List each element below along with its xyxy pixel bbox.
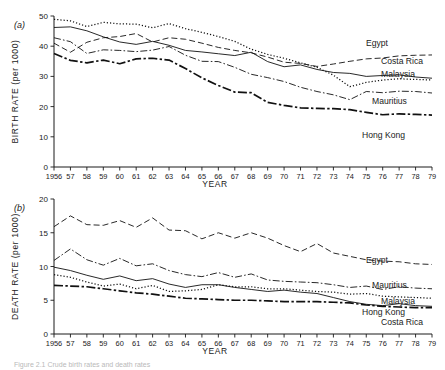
x-tick-label: 69 <box>264 339 272 348</box>
x-tick-label: 60 <box>116 339 124 348</box>
y-axis-title: BIRTH RATE (per 1000) <box>10 40 20 144</box>
series-label-malaysia: Malaysia <box>381 296 415 306</box>
series-label-mauritius: Mauritius <box>372 280 407 290</box>
series-line-malaysia <box>54 19 432 86</box>
x-tick-label: 59 <box>99 339 107 348</box>
x-tick-label: 58 <box>83 339 91 348</box>
x-tick-label: 67 <box>231 172 239 181</box>
x-tick-label: 64 <box>181 172 189 181</box>
x-tick-label: 63 <box>165 339 173 348</box>
x-tick-label: 68 <box>247 172 255 181</box>
y-tick-label: 5 <box>44 296 49 305</box>
x-tick-label: 72 <box>313 339 321 348</box>
series-label-mauritius: Mauritius <box>372 96 407 106</box>
series-label-hong-kong: Hong Kong <box>362 307 405 317</box>
panel-birth-rate: (a)0102030405019565758596061626364656667… <box>10 12 436 189</box>
x-tick-label: 58 <box>83 172 91 181</box>
series-label-egypt: Egypt <box>366 38 389 48</box>
x-tick-label: 57 <box>66 172 74 181</box>
y-tick-label: 30 <box>39 72 48 81</box>
x-tick-label: 77 <box>395 172 403 181</box>
y-tick-label: 20 <box>39 195 48 204</box>
y-tick-label: 20 <box>39 103 48 112</box>
x-tick-label: 63 <box>165 172 173 181</box>
x-tick-label: 72 <box>313 172 321 181</box>
series-label-egypt: Egypt <box>366 255 389 265</box>
panel-death-rate: (b)0510152019565758596061626364656667686… <box>10 195 436 356</box>
x-tick-label: 1956 <box>46 339 62 348</box>
x-tick-label: 76 <box>379 172 387 181</box>
y-tick-label: 40 <box>39 42 48 51</box>
figure-caption: Figure 2.1 Crude birth rates and death r… <box>14 361 151 369</box>
y-tick-label: 15 <box>39 229 48 238</box>
x-tick-label: 75 <box>362 339 370 348</box>
panel-tag-a: (a) <box>14 20 25 30</box>
x-tick-label: 71 <box>296 172 304 181</box>
y-tick-label: 10 <box>39 263 48 272</box>
figure-container: (a)0102030405019565758596061626364656667… <box>0 0 445 370</box>
dual-line-chart: (a)0102030405019565758596061626364656667… <box>0 0 445 370</box>
x-tick-label: 77 <box>395 339 403 348</box>
y-tick-label: 10 <box>39 133 48 142</box>
x-tick-label: 57 <box>66 339 74 348</box>
x-tick-label: 64 <box>181 339 189 348</box>
x-axis-title: YEAR <box>202 179 228 189</box>
x-tick-label: 73 <box>329 339 337 348</box>
panel-tag-b: (b) <box>14 203 25 213</box>
series-label-costa-rica: Costa Rica <box>381 56 423 66</box>
x-tick-label: 62 <box>148 339 156 348</box>
series-label-costa-rica: Costa Rica <box>381 317 423 327</box>
series-label-malaysia: Malaysia <box>381 69 415 79</box>
x-tick-label: 68 <box>247 339 255 348</box>
x-tick-label: 1956 <box>46 172 62 181</box>
y-tick-label: 50 <box>39 12 48 21</box>
x-axis-title: YEAR <box>202 346 228 356</box>
x-tick-label: 70 <box>280 172 288 181</box>
x-tick-label: 61 <box>132 339 140 348</box>
x-tick-label: 70 <box>280 339 288 348</box>
x-tick-label: 60 <box>116 172 124 181</box>
x-tick-label: 75 <box>362 172 370 181</box>
series-label-hong-kong: Hong Kong <box>362 130 405 140</box>
x-tick-label: 74 <box>346 339 354 348</box>
x-tick-label: 78 <box>411 339 419 348</box>
x-tick-label: 61 <box>132 172 140 181</box>
x-tick-label: 76 <box>379 339 387 348</box>
y-axis-title: DEATH RATE (per 1000) <box>10 213 20 320</box>
x-tick-label: 79 <box>428 339 436 348</box>
x-tick-label: 78 <box>411 172 419 181</box>
x-tick-label: 59 <box>99 172 107 181</box>
x-tick-label: 71 <box>296 339 304 348</box>
x-tick-label: 74 <box>346 172 354 181</box>
x-tick-label: 62 <box>148 172 156 181</box>
x-tick-label: 73 <box>329 172 337 181</box>
x-tick-label: 69 <box>264 172 272 181</box>
x-tick-label: 79 <box>428 172 436 181</box>
x-tick-label: 67 <box>231 339 239 348</box>
